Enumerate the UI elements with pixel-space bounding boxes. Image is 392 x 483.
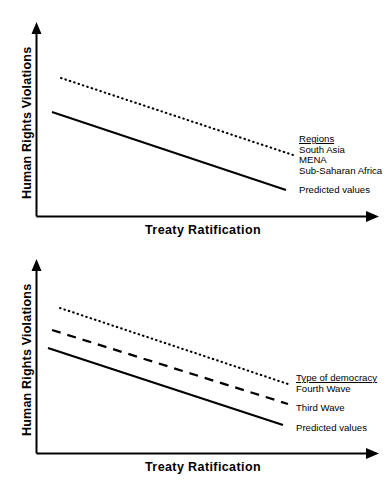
y-axis-title: Human Rights Violations [20, 47, 34, 199]
series-line-predicted-values [48, 348, 283, 425]
x-axis-arrow-icon [366, 211, 379, 222]
legend-regions: Regions South Asia MENA Sub-Saharan Afri… [299, 134, 382, 196]
democracy-plot-area [0, 242, 392, 483]
series-line-third-wave [52, 330, 288, 404]
series-line-south-asia [61, 78, 293, 155]
regions-plot-area [0, 0, 392, 242]
y-axis-title: Human Rights Violations [20, 284, 34, 436]
series-line-fourth-wave [60, 308, 291, 385]
legend-item-third-wave: Third Wave [296, 403, 377, 414]
chart-panel-regions: Human Rights Violations Treaty Ratificat… [0, 0, 392, 242]
legend-note-predicted-values: Predicted values [296, 423, 377, 434]
y-axis-arrow-icon [32, 259, 42, 271]
legend-note-predicted-values: Predicted values [299, 185, 382, 196]
x-axis-arrow-icon [366, 448, 379, 459]
legend-item-sub-saharan-africa: Sub-Saharan Africa [299, 166, 382, 177]
legend-type-of-democracy: Type of democracy Fourth Wave Third Wave… [296, 373, 377, 433]
legend-title: Regions [299, 134, 382, 145]
chart-panel-democracy: Human Rights Violations Treaty Ratificat… [0, 242, 392, 483]
series-line-sub-saharan-africa [52, 112, 286, 190]
x-axis-title: Treaty Ratification [36, 223, 370, 237]
legend-item-fourth-wave: Fourth Wave [296, 384, 377, 395]
legend-title: Type of democracy [296, 373, 377, 384]
x-axis-title: Treaty Ratification [36, 460, 370, 474]
figure-two-panel-line-charts: Human Rights Violations Treaty Ratificat… [0, 0, 392, 483]
y-axis-arrow-icon [32, 22, 42, 34]
